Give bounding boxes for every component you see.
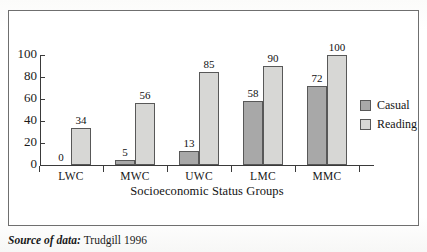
legend-item-casual: Casual: [360, 99, 422, 114]
source-caption-value: Trudgill 1996: [84, 234, 147, 246]
legend-item-reading: Reading: [360, 118, 422, 133]
bar-mmc-casual: [307, 86, 327, 165]
x-axis-tick-mark: [167, 166, 168, 172]
bar-value-label: 100: [322, 42, 352, 53]
x-axis-tick-mark: [39, 166, 40, 172]
legend-swatch-reading: [360, 119, 371, 130]
bar-mwc-casual: [115, 160, 135, 166]
category-label-uwc: UWC: [171, 170, 227, 182]
bar-value-label: 58: [238, 88, 268, 99]
y-axis-tick-mark: [40, 99, 45, 100]
category-label-lmc: LMC: [235, 170, 291, 182]
y-axis-tick-mark: [40, 165, 45, 166]
chart-plot-area: 020406080100 0345561385589072100 LWCMWCU…: [9, 11, 420, 227]
category-label-mwc: MWC: [107, 170, 163, 182]
y-axis-tick-mark: [40, 143, 45, 144]
category-label-lwc: LWC: [43, 170, 99, 182]
bar-mmc-reading: [327, 55, 347, 165]
bar-value-label: 34: [66, 115, 96, 126]
x-axis-tick-mark: [103, 166, 104, 172]
bar-value-label: 0: [46, 152, 76, 163]
x-axis-title: Socioeconomic Status Groups: [40, 184, 374, 199]
y-axis-tick-mark: [40, 55, 45, 56]
bar-value-label: 72: [302, 73, 332, 84]
y-axis-tick-label: 40: [9, 115, 37, 125]
bar-uwc-casual: [179, 151, 199, 165]
bar-uwc-reading: [199, 72, 219, 166]
bar-lmc-casual: [243, 101, 263, 165]
bar-value-label: 56: [130, 90, 160, 101]
bar-lmc-reading: [263, 66, 283, 165]
y-axis-tick-mark: [40, 77, 45, 78]
category-label-mmc: MMC: [299, 170, 355, 182]
legend-label-reading: Reading: [377, 118, 417, 131]
y-axis-line: [40, 55, 41, 166]
legend-swatch-casual: [360, 100, 371, 111]
bar-value-label: 90: [258, 53, 288, 64]
chart-legend: CasualReading: [360, 99, 422, 137]
x-axis-tick-mark: [231, 166, 232, 172]
y-axis-tick-label: 0: [9, 159, 37, 169]
bar-value-label: 13: [174, 138, 204, 149]
x-axis-tick-mark: [295, 166, 296, 172]
y-axis-tick-mark: [40, 121, 45, 122]
source-caption: Source of data: Trudgill 1996: [8, 234, 147, 246]
source-caption-label: Source of data:: [8, 234, 81, 246]
y-axis-tick-label: 60: [9, 93, 37, 103]
figure-frame: 020406080100 0345561385589072100 LWCMWCU…: [8, 10, 419, 226]
legend-label-casual: Casual: [377, 99, 410, 112]
y-axis-tick-label: 80: [9, 71, 37, 81]
bar-value-label: 85: [194, 59, 224, 70]
x-axis-line: [40, 165, 374, 166]
y-axis-tick-label: 100: [9, 49, 37, 59]
x-axis-tick-mark: [359, 166, 360, 172]
bar-value-label: 5: [110, 147, 140, 158]
y-axis-tick-label: 20: [9, 137, 37, 147]
